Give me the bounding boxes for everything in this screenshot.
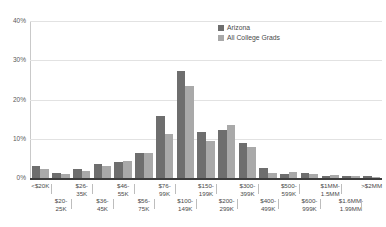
income-distribution-bar-chart: 0%10%20%30%40% Arizona All College Grads… xyxy=(0,0,386,227)
x-axis-separator-tick xyxy=(113,199,114,209)
x-axis-separator-tick xyxy=(216,184,217,194)
bar-group xyxy=(278,21,299,178)
bar xyxy=(259,168,268,178)
bar xyxy=(247,147,256,178)
x-axis-tick-label: $600-999K xyxy=(288,197,332,212)
bar-group xyxy=(154,21,175,178)
legend-swatch-icon-arizona xyxy=(218,25,224,31)
bar-group xyxy=(92,21,113,178)
x-axis-separator-tick xyxy=(134,184,135,194)
x-axis-tick-label: $36-45K xyxy=(80,197,124,212)
y-axis-tick-label: 40% xyxy=(0,17,26,24)
bar xyxy=(227,125,236,178)
bar xyxy=(289,172,298,178)
x-axis-separator-tick xyxy=(299,184,300,194)
x-axis-separator-tick xyxy=(154,199,155,209)
x-axis-separator-tick xyxy=(196,199,197,209)
bar-group xyxy=(299,21,320,178)
bar-group xyxy=(237,21,258,178)
bar xyxy=(239,143,248,178)
x-axis-tick-label: $46-55K xyxy=(101,182,145,197)
legend-item-all-college-grads: All College Grads xyxy=(218,34,280,41)
bar-group xyxy=(134,21,155,178)
bar xyxy=(156,116,165,178)
bar-group xyxy=(30,21,51,178)
legend-swatch-icon-all-college-grads xyxy=(218,35,224,41)
bar-group xyxy=(175,21,196,178)
bar xyxy=(135,153,144,178)
bar xyxy=(177,71,186,178)
x-axis-tick-label: $56-75K xyxy=(122,197,166,212)
bar-group xyxy=(113,21,134,178)
x-axis-labels: <$20K$26-35K$46-55K$76-99K$150-199K$300-… xyxy=(30,181,382,227)
axis-baseline xyxy=(30,178,382,180)
bar xyxy=(52,173,61,178)
bar-group xyxy=(341,21,362,178)
x-axis-tick-label: >$2MM xyxy=(350,182,386,190)
bar xyxy=(309,174,318,178)
bar xyxy=(61,174,70,178)
bar xyxy=(32,166,41,178)
bar xyxy=(40,169,49,178)
x-axis-separator-tick xyxy=(71,199,72,209)
bar xyxy=(218,130,227,178)
x-axis-tick-label: $100-149K xyxy=(163,197,207,212)
bar xyxy=(301,173,310,178)
x-axis-tick-label: $1.6MM-1.99MM xyxy=(329,197,373,212)
x-axis-separator-tick xyxy=(92,184,93,194)
x-axis-tick-label: $150-199K xyxy=(184,182,228,197)
bar-group xyxy=(320,21,341,178)
bar xyxy=(206,141,215,178)
x-axis-tick-label: $26-35K xyxy=(60,182,104,197)
x-axis-separator-tick xyxy=(341,184,342,194)
bar xyxy=(94,164,103,178)
x-axis-tick-label: $1MM-1.5MM xyxy=(308,182,352,197)
bar-series-container xyxy=(30,21,382,178)
bar xyxy=(351,176,360,178)
x-axis-separator-tick xyxy=(278,199,279,209)
bar xyxy=(342,176,351,178)
bar xyxy=(123,161,132,178)
plot-area xyxy=(30,21,382,178)
bar xyxy=(73,169,82,178)
y-axis-labels: 0%10%20%30%40% xyxy=(0,0,28,227)
x-axis-separator-tick xyxy=(361,199,362,209)
x-axis-separator-tick xyxy=(320,199,321,209)
x-axis-tick-label: $76-99K xyxy=(143,182,187,197)
x-axis-separator-tick xyxy=(237,199,238,209)
y-axis-tick-label: 20% xyxy=(0,96,26,103)
legend-item-arizona: Arizona xyxy=(218,24,280,31)
bar xyxy=(82,171,91,178)
x-axis-tick-label: $500-599K xyxy=(267,182,311,197)
bar xyxy=(363,176,372,178)
bar xyxy=(165,134,174,178)
x-axis-separator-tick xyxy=(258,184,259,194)
bar xyxy=(197,132,206,178)
bar xyxy=(102,166,111,178)
legend-label-all-college-grads: All College Grads xyxy=(227,34,280,41)
bar xyxy=(280,174,289,178)
x-axis-tick-label: $200-299K xyxy=(205,197,249,212)
bar-group xyxy=(196,21,217,178)
bar xyxy=(144,153,153,178)
legend-label-arizona: Arizona xyxy=(227,24,250,31)
bar xyxy=(114,162,123,178)
x-axis-separator-tick xyxy=(175,184,176,194)
bar xyxy=(322,176,331,178)
bar xyxy=(268,173,277,178)
bar xyxy=(372,177,381,178)
bar-group xyxy=(361,21,382,178)
bar xyxy=(185,86,194,178)
y-axis-tick-label: 30% xyxy=(0,56,26,63)
bar xyxy=(330,175,339,178)
x-axis-tick-label: <$20K xyxy=(18,182,62,190)
bar-group xyxy=(258,21,279,178)
x-axis-tick-label: $20-25K xyxy=(39,197,83,212)
bar-group xyxy=(216,21,237,178)
bar-group xyxy=(51,21,72,178)
y-axis-tick-label: 0% xyxy=(0,174,26,181)
x-axis-separator-tick xyxy=(51,184,52,194)
x-axis-tick-label: $300-399K xyxy=(225,182,269,197)
legend: Arizona All College Grads xyxy=(218,24,280,44)
bar-group xyxy=(71,21,92,178)
